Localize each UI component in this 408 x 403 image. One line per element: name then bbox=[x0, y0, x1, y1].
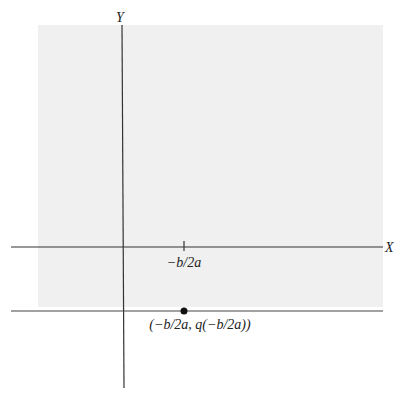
x-axis-label: X bbox=[384, 240, 394, 255]
shaded-region bbox=[38, 25, 383, 307]
vertex-point bbox=[181, 308, 188, 315]
y-axis-label: Y bbox=[116, 10, 126, 25]
vertex-point-label: (−b/2a, q(−b/2a)) bbox=[149, 317, 251, 333]
tick-label: −b/2a bbox=[167, 255, 201, 270]
parabola-vertex-diagram: X Y −b/2a (−b/2a, q(−b/2a)) bbox=[0, 0, 408, 403]
